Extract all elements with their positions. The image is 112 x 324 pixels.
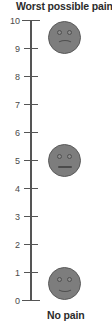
no-pain-label: No pain	[47, 308, 112, 322]
tick-label: 6	[0, 127, 20, 139]
tick-label: 5	[0, 155, 20, 167]
tick-label: 7	[0, 99, 20, 111]
tick-label: 2	[0, 239, 20, 251]
tick-label: 0	[0, 295, 20, 307]
eye-icon	[57, 154, 62, 159]
eye-icon	[57, 30, 62, 35]
tick-label: 9	[0, 43, 20, 55]
eye-icon	[57, 277, 62, 282]
tick-label: 1	[0, 267, 20, 279]
tick-mark	[24, 188, 38, 190]
tick-mark	[24, 216, 38, 218]
tick-mark	[24, 160, 38, 162]
tick-mark	[24, 104, 38, 106]
tick-mark	[22, 300, 40, 302]
smiling-face-icon	[48, 267, 81, 300]
tick-mark	[22, 20, 40, 22]
straight-mouth-icon	[58, 166, 72, 168]
tick-mark	[24, 244, 38, 246]
tick-mark	[24, 76, 38, 78]
tick-label: 8	[0, 71, 20, 83]
tick-mark	[24, 48, 38, 50]
frowning-face-icon	[48, 21, 81, 54]
tick-mark	[24, 132, 38, 134]
tick-label: 4	[0, 183, 20, 195]
eye-icon	[67, 277, 72, 282]
tick-label: 3	[0, 211, 20, 223]
frown-mouth-icon	[57, 40, 73, 49]
smile-mouth-icon	[57, 283, 73, 292]
tick-mark	[24, 272, 38, 274]
tick-label: 10	[0, 15, 20, 27]
pain-scale-figure: Worst possible pain 109876543210 No pain	[0, 0, 112, 324]
eye-icon	[67, 154, 72, 159]
neutral-face-icon	[48, 144, 81, 177]
eye-icon	[67, 30, 72, 35]
